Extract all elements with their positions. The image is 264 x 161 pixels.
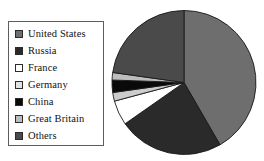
legend-label-germany: Germany bbox=[28, 76, 68, 93]
legend-item-russia[interactable]: Russia bbox=[15, 42, 103, 59]
legend-item-great-britain[interactable]: Great Britain bbox=[15, 110, 103, 127]
pie-plot-area bbox=[111, 9, 257, 156]
legend-label-china: China bbox=[28, 93, 54, 110]
legend-item-china[interactable]: China bbox=[15, 93, 103, 110]
pie-slice-others[interactable] bbox=[113, 11, 184, 83]
legend-item-united-states[interactable]: United States bbox=[15, 25, 103, 42]
pie-chart-figure: United States Russia France Germany Chin… bbox=[0, 0, 264, 161]
legend-item-others[interactable]: Others bbox=[15, 127, 103, 144]
legend-swatch-united-states bbox=[15, 30, 23, 38]
legend-swatch-france bbox=[15, 64, 23, 72]
legend-swatch-russia bbox=[15, 47, 23, 55]
pie-slice-group bbox=[112, 11, 256, 155]
legend-label-france: France bbox=[28, 59, 57, 76]
legend-label-united-states: United States bbox=[28, 25, 86, 42]
legend-swatch-great-britain bbox=[15, 115, 23, 123]
legend-label-others: Others bbox=[28, 127, 57, 144]
legend-item-france[interactable]: France bbox=[15, 59, 103, 76]
pie-svg bbox=[111, 9, 257, 156]
legend-swatch-germany bbox=[15, 81, 23, 89]
legend-swatch-others bbox=[15, 132, 23, 140]
legend-swatch-china bbox=[15, 98, 23, 106]
legend-label-russia: Russia bbox=[28, 42, 57, 59]
legend-label-great-britain: Great Britain bbox=[28, 110, 84, 127]
legend-item-germany[interactable]: Germany bbox=[15, 76, 103, 93]
chart-legend: United States Russia France Germany Chin… bbox=[8, 21, 104, 146]
